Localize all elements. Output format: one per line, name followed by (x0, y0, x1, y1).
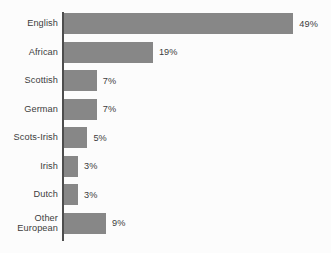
bar-row: Scottish7% (0, 70, 331, 91)
bar-row: African19% (0, 42, 331, 63)
bar (64, 156, 78, 177)
bar (64, 127, 87, 148)
bar-row: German7% (0, 99, 331, 120)
bar (64, 42, 153, 63)
bar-chart: English49%African19%Scottish7%German7%Sc… (0, 0, 331, 253)
category-label: German (0, 99, 58, 120)
bar-value-label: 3% (84, 156, 97, 177)
bar-value-label: 19% (159, 42, 178, 63)
bar-value-label: 3% (84, 184, 97, 205)
bar (64, 184, 78, 205)
category-label: Irish (0, 156, 58, 177)
bar-row: English49% (0, 13, 331, 34)
category-label: Other European (0, 213, 58, 234)
category-label: English (0, 13, 58, 34)
bar-row: Dutch3% (0, 184, 331, 205)
category-label: African (0, 42, 58, 63)
category-label: Dutch (0, 184, 58, 205)
bar-row: Other European9% (0, 213, 331, 234)
bar-value-label: 49% (299, 13, 318, 34)
plot-area: English49%African19%Scottish7%German7%Sc… (0, 0, 331, 253)
category-label: Scots-Irish (0, 127, 58, 148)
bar-row: Scots-Irish5% (0, 127, 331, 148)
bar-row: Irish3% (0, 156, 331, 177)
bar (64, 99, 97, 120)
bar-value-label: 7% (103, 70, 116, 91)
bar-value-label: 7% (103, 99, 116, 120)
category-label: Scottish (0, 70, 58, 91)
bar (64, 13, 293, 34)
bar (64, 70, 97, 91)
bar-value-label: 9% (112, 213, 125, 234)
bar-value-label: 5% (93, 127, 106, 148)
bar (64, 213, 106, 234)
